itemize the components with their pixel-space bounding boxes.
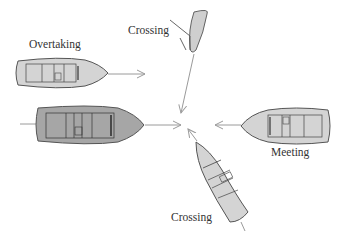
meeting-boat	[241, 108, 330, 144]
crossing-bottom-wake	[241, 222, 245, 231]
crossing-boat-top	[170, 10, 207, 52]
label-overtaking: Overtaking	[29, 38, 81, 50]
overtaking-boat	[16, 58, 108, 88]
encounter-diagram: Overtaking Crossing Meeting Crossing	[0, 0, 343, 237]
crossing-boat-bottom	[196, 142, 248, 222]
label-meeting: Meeting	[271, 146, 309, 158]
crossing-bottom-arrow	[188, 129, 197, 141]
label-crossing-bottom: Crossing	[171, 211, 212, 223]
diagram-canvas	[0, 0, 343, 237]
crossing-top-arrow	[181, 54, 194, 113]
overtaken-boat	[36, 106, 144, 144]
label-crossing-top: Crossing	[128, 24, 169, 36]
